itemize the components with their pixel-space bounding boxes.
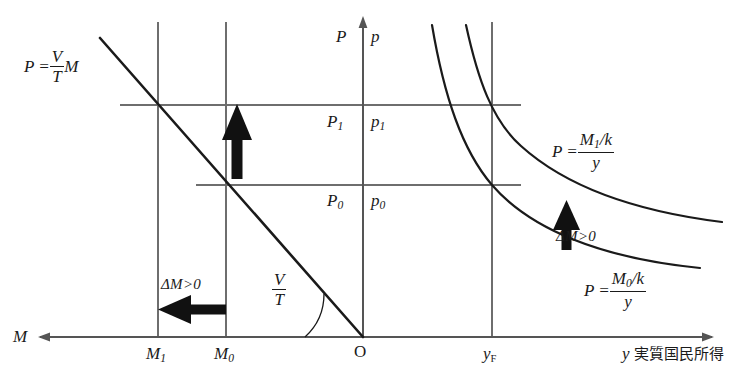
axis-label-price-right: p	[371, 28, 380, 45]
origin-label: O	[354, 343, 366, 360]
tick-label-m1: M1	[146, 345, 166, 365]
tick-label-yf: yF	[483, 345, 496, 364]
equation-quantity-theory-denominator: T	[50, 67, 64, 87]
equation-hyperbola-m1: P =M1/ky	[552, 131, 614, 174]
equation-hyperbola-m0-numerator: M0/k	[610, 269, 646, 292]
annotation-delta-money-right: ΔM>0	[556, 229, 596, 244]
axis-arrow-up	[359, 16, 368, 28]
equation-hyperbola-m1-denominator: y	[578, 153, 614, 173]
slope-label: VT	[272, 271, 286, 311]
equation-hyperbola-m0-fraction: M0/ky	[610, 269, 646, 312]
equation-hyperbola-m0: P =M0/ky	[584, 270, 646, 313]
curve-hyperbola-m1	[466, 25, 722, 222]
axis-arrow-left	[38, 333, 50, 342]
axis-label-money: M	[13, 328, 27, 345]
equation-hyperbola-m1-numerator: M1/k	[578, 130, 614, 153]
equation-hyperbola-m0-lhs: P =	[584, 281, 610, 300]
equation-hyperbola-m1-lhs: P =	[552, 142, 578, 161]
tick-label-p1-right: p1	[371, 113, 385, 133]
equation-quantity-theory-tail: M	[64, 57, 78, 76]
equation-quantity-theory-lhs: P =	[24, 57, 50, 76]
diagram-vector-layer	[0, 0, 733, 382]
annotation-delta-money-left: ΔM>0	[161, 277, 201, 292]
slope-numerator: V	[272, 270, 286, 290]
slope-fraction: VT	[272, 270, 286, 310]
axis-label-price-left: P	[336, 28, 346, 45]
axis-arrow-right	[702, 333, 714, 342]
equation-quantity-theory-numerator: V	[50, 47, 64, 67]
line-quantity-theory	[100, 38, 363, 337]
diagram-canvas: P =VTM VT P =M1/ky P =M0/ky M P p O y 実質…	[0, 0, 733, 382]
axis-label-income: y 実質国民所得	[622, 345, 724, 362]
tick-label-p0-right: p0	[371, 192, 385, 212]
axis-label-income-symbol: y	[622, 344, 630, 363]
equation-quantity-theory-fraction: VT	[50, 47, 64, 87]
angle-arc	[305, 294, 324, 337]
equation-hyperbola-m0-denominator: y	[610, 292, 646, 312]
tick-label-p0: P0	[327, 192, 343, 212]
tick-label-m0: M0	[214, 345, 234, 365]
equation-quantity-theory: P =VTM	[24, 48, 78, 88]
arrow-money-increase-left	[158, 295, 226, 324]
axis-label-income-text: 実質国民所得	[634, 345, 724, 363]
tick-label-p1: P1	[327, 113, 343, 133]
slope-denominator: T	[272, 290, 286, 310]
equation-hyperbola-m1-fraction: M1/ky	[578, 130, 614, 173]
